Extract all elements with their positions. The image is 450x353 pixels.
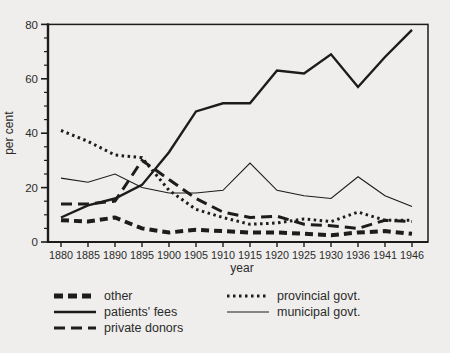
- x-tick-label: 1885: [76, 249, 100, 261]
- x-tick-label: 1920: [265, 249, 289, 261]
- x-tick-label: 1930: [319, 249, 343, 261]
- legend-item-patients-fees: patients' fees: [53, 305, 177, 319]
- y-axis-title: per cent: [2, 111, 16, 155]
- x-tick-label: 1880: [49, 249, 73, 261]
- x-tick-label: 1890: [103, 249, 127, 261]
- x-tick-label: 1895: [130, 249, 154, 261]
- x-tick-label: 1936: [346, 249, 370, 261]
- x-tick-label: 1946: [400, 249, 424, 261]
- legend-item-other: other: [53, 289, 133, 303]
- series-line-patients-fees: [61, 30, 412, 218]
- y-tick-label: 80: [25, 19, 38, 31]
- chart-figure: 0204060801880188518901895190019051910191…: [0, 0, 450, 353]
- y-tick-label: 40: [25, 127, 38, 139]
- legend-label-private-donors: private donors: [104, 321, 183, 335]
- x-tick-label: 1941: [373, 249, 397, 261]
- legend-swatch-municipal-govt-icon: [226, 307, 270, 317]
- legend-label-municipal-govt: municipal govt.: [277, 305, 360, 319]
- line-chart-canvas: 0204060801880188518901895190019051910191…: [0, 0, 450, 284]
- legend-swatch-private-donors-icon: [53, 323, 97, 333]
- legend-swatch-provincial-govt-icon: [226, 291, 270, 301]
- x-axis-title: year: [230, 261, 253, 275]
- legend-label-other: other: [104, 289, 133, 303]
- x-tick-label: 1915: [238, 249, 262, 261]
- legend-item-provincial-govt: provincial govt.: [226, 289, 360, 303]
- x-tick-label: 1900: [157, 249, 181, 261]
- chart-legend: other patients' fees private donors prov…: [0, 284, 450, 353]
- legend-swatch-patients-fees-icon: [53, 307, 97, 317]
- y-tick-label: 0: [32, 236, 38, 248]
- legend-swatch-other-icon: [53, 291, 97, 301]
- y-tick-label: 20: [25, 182, 38, 194]
- y-tick-label: 60: [25, 73, 38, 85]
- plot-frame: [48, 24, 428, 242]
- legend-label-patients-fees: patients' fees: [104, 305, 177, 319]
- x-tick-label: 1925: [292, 249, 316, 261]
- x-tick-label: 1910: [211, 249, 235, 261]
- legend-item-private-donors: private donors: [53, 321, 183, 335]
- series-line-other: [61, 218, 412, 236]
- x-tick-label: 1905: [184, 249, 208, 261]
- legend-label-provincial-govt: provincial govt.: [277, 289, 360, 303]
- legend-item-municipal-govt: municipal govt.: [226, 305, 360, 319]
